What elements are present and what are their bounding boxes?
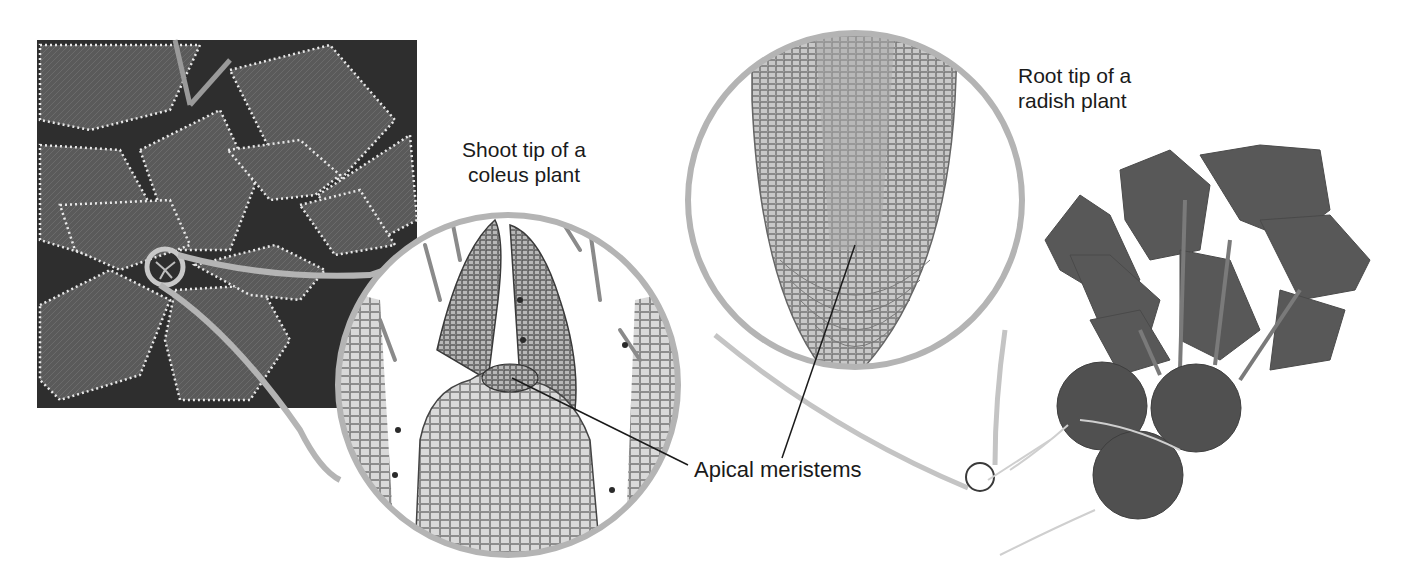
root-tip-micrograph xyxy=(688,30,1022,375)
radish-roots xyxy=(1057,362,1241,519)
shoot-tip-micrograph xyxy=(338,210,680,555)
radish-photo xyxy=(1000,145,1370,555)
root-tip-label: Root tip of a radish plant xyxy=(1018,63,1158,113)
root-tip-source-ring xyxy=(966,440,1050,491)
root-tip-label-line1: Root tip of a xyxy=(1018,63,1158,88)
diagram-canvas xyxy=(0,0,1410,572)
apical-meristems-label: Apical meristems xyxy=(694,457,861,482)
shoot-tip-label: Shoot tip of a coleus plant xyxy=(454,137,594,187)
shoot-tip-label-line2: coleus plant xyxy=(454,162,594,187)
shoot-tip-label-line1: Shoot tip of a xyxy=(454,137,594,162)
root-tip-label-line2: radish plant xyxy=(1018,88,1158,113)
radish-leaves xyxy=(1045,145,1370,375)
